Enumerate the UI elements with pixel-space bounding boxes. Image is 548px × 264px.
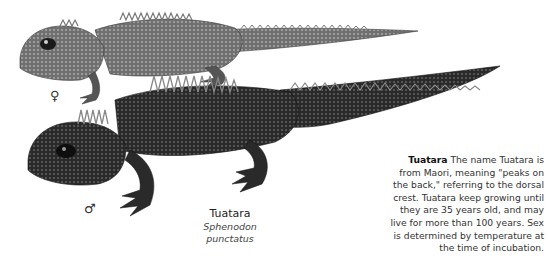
description-text: Tuatara The name Tuatara is from Maori, … [384, 154, 544, 255]
description-body: The name Tuatara is from Maori, meaning … [390, 154, 544, 253]
species-caption: Tuatara Sphenodon punctatus [180, 207, 280, 245]
male-symbol: ♂ [84, 201, 96, 216]
female-symbol: ♀ [50, 88, 60, 103]
scientific-name: Sphenodon punctatus [180, 221, 280, 245]
description-title: Tuatara [408, 154, 447, 165]
common-name: Tuatara [180, 207, 280, 221]
